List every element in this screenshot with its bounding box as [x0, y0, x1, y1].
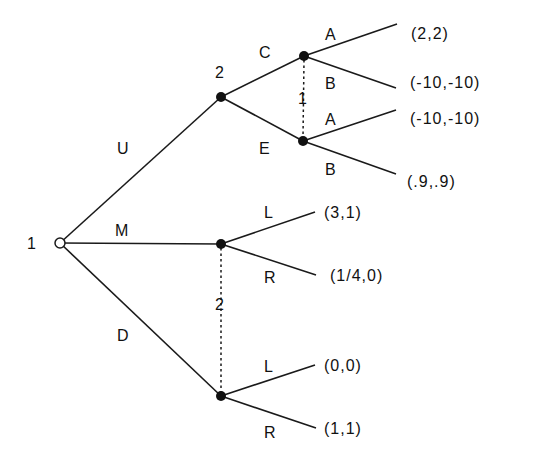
action-U-label: U — [117, 140, 129, 157]
node-M — [216, 239, 226, 249]
action-A2-label: A — [325, 111, 336, 128]
edge-U — [60, 97, 221, 243]
info-set-1-player-label: 1 — [298, 90, 307, 107]
action-R1-label: R — [264, 269, 276, 286]
edge-M — [60, 243, 221, 244]
edge-E — [221, 97, 303, 141]
edge-D — [60, 243, 221, 396]
action-R2-label: R — [264, 424, 276, 441]
root-node — [55, 238, 65, 248]
action-E-label: E — [259, 140, 270, 157]
action-B2-label: B — [325, 161, 336, 178]
edge-C — [221, 56, 304, 97]
edge-E-B — [303, 141, 396, 174]
action-L1-label: L — [264, 204, 273, 221]
game-tree-svg: 1 2 1 2 U M D C E A B A B L R L R (2,2) … — [0, 0, 536, 467]
edge-C-A — [304, 24, 397, 56]
node-C — [299, 51, 309, 61]
payoff-D-R: (1,1) — [324, 420, 362, 437]
game-tree-diagram: 1 2 1 2 U M D C E A B A B L R L R (2,2) … — [0, 0, 536, 467]
edge-E-A — [303, 110, 396, 141]
node-D — [216, 391, 226, 401]
payoff-C-A: (2,2) — [411, 25, 449, 42]
action-M-label: M — [115, 222, 128, 239]
root-player-label: 1 — [27, 235, 36, 252]
edge-C-B — [304, 56, 396, 88]
info-set-2-player-label: 2 — [215, 296, 224, 313]
node-U — [216, 92, 226, 102]
payoff-M-L: (3,1) — [324, 204, 362, 221]
payoff-E-A: (-10,-10) — [410, 110, 480, 127]
payoff-D-L: (0,0) — [324, 357, 362, 374]
payoff-C-B: (-10,-10) — [410, 74, 480, 91]
payoff-E-B: (.9,.9) — [407, 173, 456, 190]
action-B1-label: B — [325, 75, 336, 92]
payoff-M-R: (1/4,0) — [330, 267, 383, 284]
node-U-player-label: 2 — [215, 64, 224, 81]
action-A1-label: A — [325, 26, 336, 43]
action-C-label: C — [259, 44, 271, 61]
action-D-label: D — [117, 327, 129, 344]
node-E — [298, 136, 308, 146]
action-L2-label: L — [264, 358, 273, 375]
